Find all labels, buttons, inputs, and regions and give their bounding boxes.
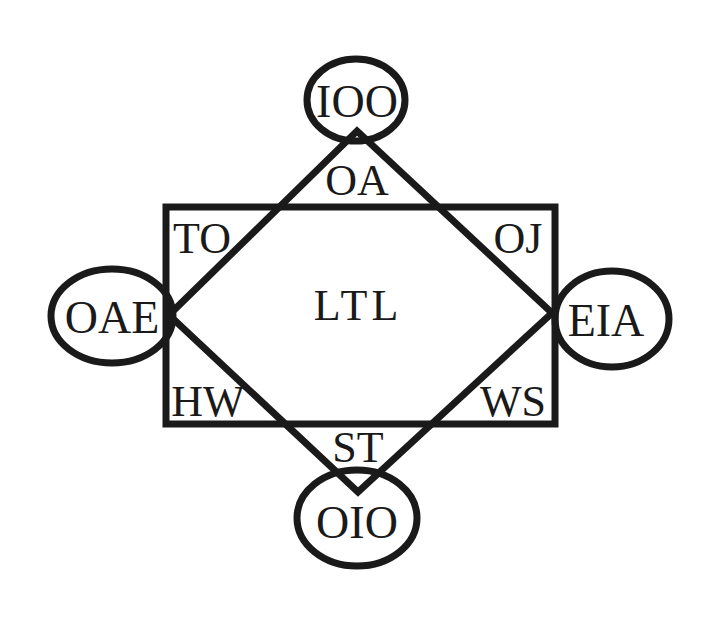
region-label-top-middle: OA (325, 156, 389, 205)
circle-label-left: OAE (65, 292, 160, 343)
region-label-bottom-left: HW (171, 377, 245, 426)
circle-label-right: EIA (568, 295, 645, 346)
diagram-canvas: IOO OAE EIA OIO LTL OA TO OJ HW WS ST (0, 0, 718, 622)
circle-label-top: IOO (316, 76, 398, 127)
region-label-bottom-right: WS (480, 377, 546, 426)
region-label-bottom-middle: ST (332, 423, 383, 472)
circle-label-bottom: OIO (316, 497, 398, 548)
region-label-top-left: TO (173, 214, 231, 263)
center-label: LTL (314, 281, 403, 330)
region-label-top-right: OJ (494, 214, 543, 263)
